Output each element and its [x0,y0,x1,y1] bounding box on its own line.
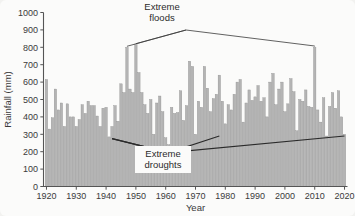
bar-1994 [266,117,268,187]
bar-1940 [105,107,107,186]
bar-1949 [132,93,134,187]
bar-1942 [111,126,113,186]
bar-1930 [75,126,77,186]
bar-1974 [206,88,208,186]
y-tick-label-700: 700 [23,60,38,70]
extreme-droughts-line2: droughts [145,159,182,170]
bar-1935 [90,106,92,187]
bar-2017 [334,108,336,186]
bar-1920 [45,79,47,186]
bar-1986 [242,122,244,186]
bar-2014 [325,136,327,186]
bar-1969 [191,66,193,186]
x-tick-label-1990: 1990 [245,191,265,201]
bar-1924 [57,110,59,187]
bar-2003 [293,92,295,187]
bar-1990 [254,97,256,187]
y-tick-label-900: 900 [23,25,38,35]
bar-2019 [340,117,342,187]
y-tick-label-600: 600 [23,77,38,87]
x-axis-title: Year [186,202,205,213]
bar-1929 [72,117,74,187]
y-tick-label-300: 300 [23,130,38,140]
bar-1983 [233,94,235,186]
extreme-floods-line2: floods [149,12,175,23]
bar-1948 [129,89,131,186]
bar-1973 [203,66,205,186]
bar-2008 [308,106,310,186]
bar-2007 [305,90,307,187]
bar-1984 [236,82,238,186]
bar-1946 [123,93,125,187]
bar-1944 [117,121,119,186]
bar-1939 [102,108,104,186]
bar-1941 [108,137,110,187]
bar-2005 [299,100,301,187]
bar-1977 [215,94,217,186]
bar-1982 [230,110,232,187]
x-tick-label-2000: 2000 [275,191,295,201]
bar-2006 [302,101,304,186]
bar-2018 [337,91,339,187]
bar-1945 [120,84,122,187]
bar-2020 [343,134,345,186]
bar-1976 [212,99,214,187]
bar-2011 [316,110,318,187]
bar-1993 [263,98,265,187]
bar-1989 [251,100,253,186]
y-tick-label-200: 200 [23,147,38,157]
bar-1943 [114,106,116,187]
bar-1996 [272,73,274,186]
bar-1970 [194,134,196,186]
bar-1921 [48,129,50,186]
bar-1926 [63,126,65,186]
bar-1947 [126,47,128,186]
x-tick-label-1970: 1970 [185,191,205,201]
bar-1932 [81,105,83,187]
bar-2016 [331,93,333,187]
bars-group [45,45,345,187]
rainfall-bar-chart: 0100200300400500600700800900100019201930… [0,0,355,216]
bar-1937 [96,116,98,186]
bar-2002 [290,79,292,187]
y-tick-label-500: 500 [23,95,38,105]
bar-1971 [197,101,199,186]
bar-1972 [200,107,202,186]
x-tick-label-1920: 1920 [36,191,56,201]
bar-1925 [60,103,62,187]
bar-1985 [239,79,241,186]
x-tick-label-1930: 1930 [66,191,86,201]
bar-1979 [221,101,223,186]
bar-1953 [144,105,146,187]
x-tick-label-1960: 1960 [156,191,176,201]
bar-2000 [284,112,286,187]
bar-1997 [275,105,277,187]
bar-2013 [322,98,324,187]
bar-1927 [66,104,68,187]
bar-1998 [278,89,280,186]
bar-2001 [287,104,289,187]
bar-1991 [257,86,259,187]
bar-1928 [69,117,71,187]
bar-2009 [311,107,313,186]
y-tick-label-100: 100 [23,164,38,174]
bar-1931 [78,120,80,187]
extreme-droughts-line1: Extreme [145,148,180,159]
bar-1988 [248,90,250,187]
bar-1999 [281,82,283,186]
extreme-floods-line1: Extreme [144,1,179,12]
bar-1938 [99,126,101,186]
floods-leader-1950 [136,30,186,44]
x-tick-label-1980: 1980 [215,191,235,201]
bar-1980 [224,124,226,187]
bar-1933 [84,113,86,186]
bar-2004 [296,131,298,187]
y-tick-label-800: 800 [23,43,38,53]
x-tick-label-2020: 2020 [335,191,355,201]
bar-1922 [51,118,53,187]
bar-2012 [319,122,321,186]
chart-svg: 0100200300400500600700800900100019201930… [0,0,355,216]
floods-leader-2010 [186,30,315,46]
bar-1955 [150,100,152,187]
chart-card: 0100200300400500600700800900100019201930… [0,0,355,216]
